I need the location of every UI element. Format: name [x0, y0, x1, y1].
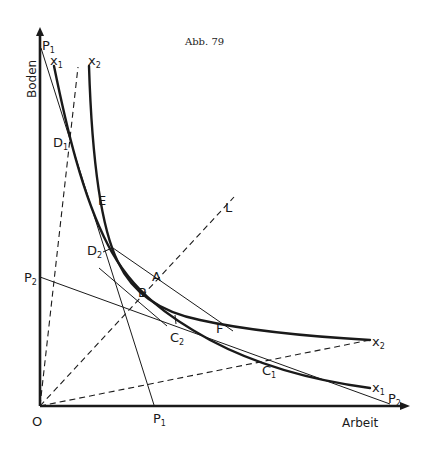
y-axis-arrow-icon [36, 27, 44, 36]
label-P2-left: P2 [24, 270, 37, 287]
figure-caption: Abb. 79 [184, 36, 224, 47]
price-line-P1 [41, 48, 154, 405]
label-D2: D2 [87, 243, 102, 260]
tick-C2 [175, 315, 176, 324]
origin-label: O [32, 414, 42, 429]
ray-flat [40, 340, 370, 406]
y-axis-label: Boden [25, 60, 39, 98]
label-P1-bottom: P1 [153, 411, 166, 428]
label-D1: D1 [53, 135, 68, 152]
label-C2: C2 [170, 330, 184, 347]
label-A: A [152, 269, 161, 284]
label-C1: C1 [262, 363, 276, 380]
label-E: E [98, 193, 106, 208]
x-axis-arrow-icon [400, 402, 410, 410]
label-x2-top: x2 [88, 53, 101, 70]
rays [40, 67, 370, 406]
label-x1-right: x1 [372, 380, 385, 397]
ray-steep [40, 67, 78, 406]
ray-L [40, 197, 234, 406]
price-line-P2 [40, 277, 390, 404]
label-x1-top: x1 [50, 53, 63, 70]
axes [36, 27, 410, 410]
x-axis-label: Arbeit [342, 416, 378, 430]
label-P1-top: P1 [42, 38, 55, 55]
label-P2-right: P2 [388, 391, 401, 408]
label-F: F [216, 321, 223, 336]
label-B: B [138, 285, 147, 300]
label-L: L [225, 200, 233, 215]
isoquant-diagram: Abb. 79 Boden Arbeit O x1 x2 x1 x2 P1 P1… [0, 0, 431, 449]
price-lines [40, 48, 390, 405]
label-x2-right: x2 [372, 334, 385, 351]
